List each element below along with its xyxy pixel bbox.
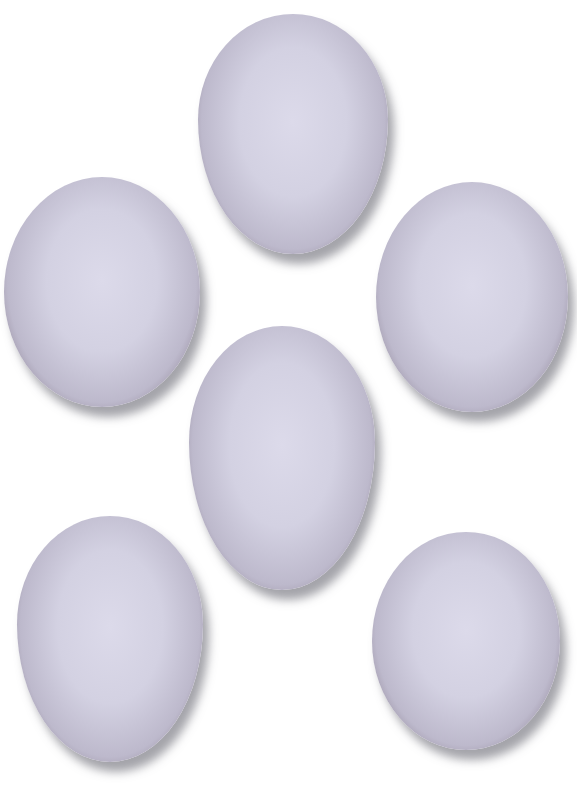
egg-top-center (198, 14, 388, 254)
egg-lower-left (17, 516, 203, 762)
egg-upper-left (4, 177, 200, 407)
egg-upper-right (376, 182, 568, 412)
egg-center (189, 326, 375, 590)
egg-lower-right (372, 532, 560, 750)
